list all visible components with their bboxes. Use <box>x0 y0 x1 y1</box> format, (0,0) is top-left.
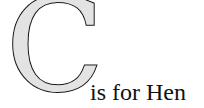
caption-text: is for Hen <box>90 80 186 104</box>
alphabet-card: C is for Hen <box>0 0 204 108</box>
